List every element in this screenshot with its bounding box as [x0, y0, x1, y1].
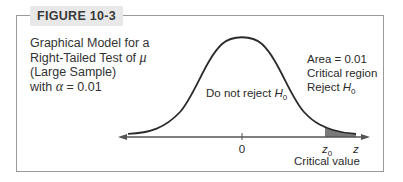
- normal-curve-plot: 0 z0 z Critical value Do not reject H0 A…: [0, 0, 403, 182]
- reject-label: Reject H0: [307, 81, 356, 96]
- area-label: Area = 0.01: [307, 53, 367, 65]
- axis-right-arrow-icon: [361, 134, 370, 140]
- axis-left-arrow-icon: [118, 134, 127, 140]
- do-not-reject-label: Do not reject H0: [206, 87, 288, 102]
- tick-label-zero: 0: [239, 143, 245, 155]
- critical-region-label: Critical region: [307, 67, 377, 79]
- z-axis-label: z: [352, 143, 359, 155]
- critical-value-label: Critical value: [294, 155, 360, 167]
